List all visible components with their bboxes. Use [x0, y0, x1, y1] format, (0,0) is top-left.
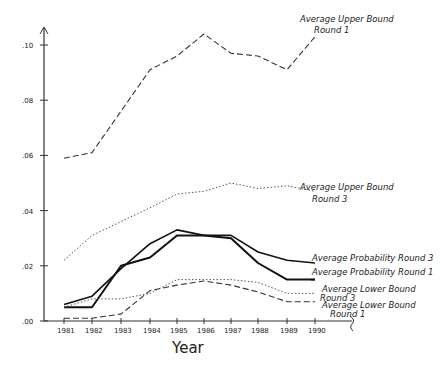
y-tick-label: .10: [22, 42, 33, 50]
series-label: Round 3: [312, 194, 347, 204]
series-label: Round 1: [330, 309, 365, 319]
series-label: Round 1: [314, 25, 349, 35]
x-tick-label: 1982: [85, 327, 103, 335]
series-line-average-probability-round-1: [64, 235, 315, 307]
series-line-average-upper-bound-round-3: [64, 183, 315, 260]
y-tick-label: .06: [22, 152, 34, 160]
x-tick-label: 1990: [308, 327, 326, 335]
x-axis-title: Year: [171, 339, 205, 357]
series-lines: [64, 34, 315, 318]
x-tick-label: 1984: [143, 327, 161, 335]
series-label: Average Upper Bound: [299, 14, 394, 24]
x-tick-label: 1988: [251, 327, 269, 335]
x-tick-label: 1981: [57, 327, 75, 335]
y-tick-label: .02: [22, 263, 33, 271]
y-tick-label: .08: [22, 97, 33, 105]
axes: .00.02.04.06.08.101981198219831984198519…: [22, 27, 354, 335]
series-labels: Average Upper BoundRound 1Average Upper …: [299, 14, 433, 319]
series-label: Average Probability Round 1: [311, 267, 433, 277]
series-label: Average Upper Bound: [299, 182, 394, 192]
x-tick-label: 1989: [280, 327, 298, 335]
series-label: Average Probability Round 3: [311, 253, 433, 263]
line-chart: .00.02.04.06.08.101981198219831984198519…: [0, 0, 440, 374]
x-tick-label: 1986: [197, 327, 215, 335]
x-tick-label: 1983: [114, 327, 132, 335]
y-tick-label: .00: [22, 318, 33, 326]
series-line-average-upper-bound-round-1: [64, 34, 315, 158]
x-tick-label: 1985: [170, 327, 188, 335]
x-tick-label: 1987: [224, 327, 242, 335]
y-tick-label: .04: [22, 208, 34, 216]
